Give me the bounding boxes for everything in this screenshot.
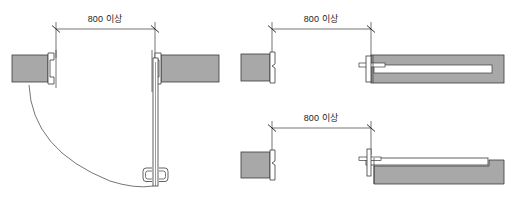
door-clearance-drawing: 800 이상	[0, 0, 515, 203]
left-wall-block	[241, 54, 270, 81]
door-pull-handle-right	[159, 168, 168, 182]
panel-swing-door: 800 이상	[12, 14, 219, 187]
leading-edge-pull	[367, 149, 371, 176]
door-pull-handle-left	[143, 168, 152, 182]
sliding-leaf	[366, 158, 488, 165]
swing-arc	[29, 85, 153, 187]
dimension-label: 800 이상	[88, 14, 123, 24]
door-pull-handle-left-inner	[146, 171, 153, 179]
left-door-jamb	[48, 53, 54, 84]
track-rail	[359, 63, 385, 67]
diagram-canvas: 800 이상	[0, 0, 515, 203]
left-wall-block	[241, 152, 270, 178]
right-wall-block	[161, 55, 219, 82]
left-wall-block	[12, 55, 48, 82]
left-door-jamb	[270, 52, 275, 83]
leading-edge-stile	[366, 56, 371, 82]
panel-surface-sliding-door: 800 이상	[241, 113, 504, 184]
recessed-leaf-slot	[374, 65, 492, 73]
dimension-label: 800 이상	[304, 113, 339, 123]
dimension-label: 800 이상	[304, 14, 339, 24]
door-pull-handle-right-inner	[159, 171, 166, 179]
panel-pocket-sliding-door: 800 이상	[241, 14, 504, 83]
left-door-jamb	[270, 150, 275, 180]
